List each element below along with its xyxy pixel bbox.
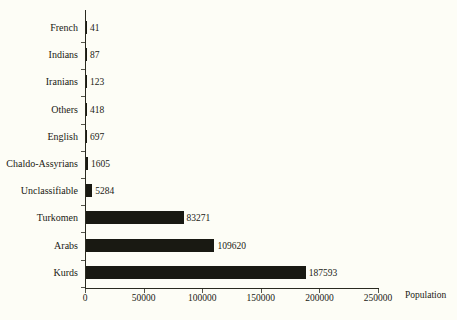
bar xyxy=(86,211,184,224)
y-axis-tick xyxy=(81,178,85,179)
bar-value-label: 83271 xyxy=(187,210,211,226)
category-label: Arabs xyxy=(54,238,78,254)
x-axis-tick-label: 50000 xyxy=(132,293,156,303)
x-axis-tick-label: 200000 xyxy=(305,293,334,303)
y-axis-tick xyxy=(81,151,85,152)
bar-value-label: 187593 xyxy=(309,265,338,281)
bar-value-label: 123 xyxy=(90,74,104,90)
category-label: Chaldo-Assyrians xyxy=(6,156,78,172)
x-axis-tick-label: 100000 xyxy=(188,293,217,303)
bar-row: Turkomen83271 xyxy=(0,210,457,226)
bar xyxy=(86,21,87,34)
bar-row: Kurds187593 xyxy=(0,265,457,281)
category-label: Iranians xyxy=(46,74,78,90)
category-label: French xyxy=(50,20,78,36)
category-label: Kurds xyxy=(54,265,78,281)
bar-row: Arabs109620 xyxy=(0,238,457,254)
bar xyxy=(86,75,87,88)
y-axis-tick xyxy=(81,205,85,206)
y-axis-tick xyxy=(81,42,85,43)
y-axis-tick xyxy=(81,124,85,125)
bar xyxy=(86,157,88,170)
y-axis-tick xyxy=(81,69,85,70)
category-label: Turkomen xyxy=(37,210,78,226)
bar xyxy=(86,130,87,143)
y-axis-tick xyxy=(81,260,85,261)
category-label: Others xyxy=(51,102,78,118)
bar-row: Chaldo-Assyrians1605 xyxy=(0,156,457,172)
bar-row: Indians87 xyxy=(0,47,457,63)
bar-value-label: 41 xyxy=(90,20,100,36)
bar xyxy=(86,184,92,197)
population-bar-chart: French41Indians87Iranians123Others418Eng… xyxy=(0,0,457,320)
x-axis-tick-label: 150000 xyxy=(247,293,276,303)
bar-value-label: 697 xyxy=(90,129,104,145)
x-axis-tick-label: 250000 xyxy=(364,293,393,303)
bar-row: Unclassifiable5284 xyxy=(0,183,457,199)
bar xyxy=(86,266,306,279)
bar-value-label: 1605 xyxy=(91,156,110,172)
x-axis-line xyxy=(85,288,379,289)
bar-row: Iranians123 xyxy=(0,74,457,90)
category-label: English xyxy=(47,129,78,145)
bar-value-label: 5284 xyxy=(95,183,114,199)
y-axis-tick xyxy=(81,96,85,97)
bar xyxy=(86,48,87,61)
bar-value-label: 418 xyxy=(90,102,104,118)
bar xyxy=(86,239,214,252)
bar-value-label: 109620 xyxy=(217,238,246,254)
category-label: Indians xyxy=(49,47,78,63)
bar-row: English697 xyxy=(0,129,457,145)
bar-value-label: 87 xyxy=(90,47,100,63)
x-axis-tick-label: 0 xyxy=(83,293,88,303)
bar-row: Others418 xyxy=(0,102,457,118)
x-axis-title: Population xyxy=(405,290,446,300)
y-axis-tick xyxy=(81,232,85,233)
y-axis-tick xyxy=(81,287,85,288)
category-label: Unclassifiable xyxy=(21,183,78,199)
bar xyxy=(86,103,87,116)
bar-row: French41 xyxy=(0,20,457,36)
